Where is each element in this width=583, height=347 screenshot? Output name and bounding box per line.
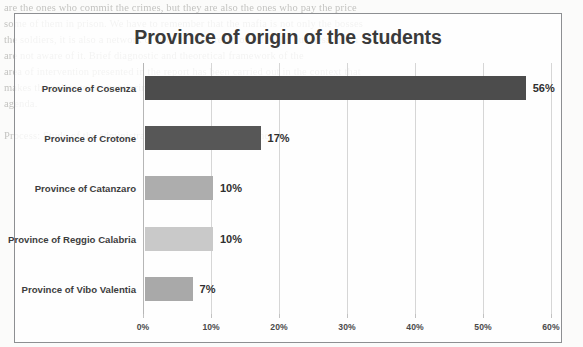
bar-row: Province of Vibo Valentia7% xyxy=(143,264,553,314)
category-label: Province of Cosenza xyxy=(42,83,136,94)
bar[interactable] xyxy=(145,176,213,200)
category-label: Province of Reggio Calabria xyxy=(8,233,136,244)
x-tick-label: 30% xyxy=(338,322,355,332)
bar-value-label: 56% xyxy=(533,82,555,94)
background-text-line: are the ones who commit the crimes, but … xyxy=(4,2,579,13)
category-label: Province of Catanzaro xyxy=(35,183,136,194)
bar-value-label: 7% xyxy=(200,283,216,295)
bar-value-label: 17% xyxy=(268,132,290,144)
x-tick-label: 40% xyxy=(406,322,423,332)
x-tick-label: 20% xyxy=(270,322,287,332)
x-tick-label: 10% xyxy=(202,322,219,332)
chart-title: Province of origin of the students xyxy=(15,26,561,49)
x-tick-mark xyxy=(143,314,144,318)
bar[interactable] xyxy=(145,76,526,100)
chart-frame: Province of origin of the students Provi… xyxy=(14,13,562,343)
x-axis: 0%10%20%30%40%50%60% xyxy=(143,314,553,340)
plot-area: Province of Cosenza56%Province of Croton… xyxy=(143,63,553,314)
x-tick-mark xyxy=(483,314,484,318)
x-tick-mark xyxy=(279,314,280,318)
x-tick-mark xyxy=(415,314,416,318)
bar[interactable] xyxy=(145,126,261,150)
bar-row: Province of Cosenza56% xyxy=(143,63,553,113)
category-label: Province of Crotone xyxy=(44,133,136,144)
x-tick-label: 60% xyxy=(542,322,559,332)
bar[interactable] xyxy=(145,277,193,301)
bar-row: Province of Crotone17% xyxy=(143,113,553,163)
x-tick-label: 50% xyxy=(474,322,491,332)
bar-value-label: 10% xyxy=(220,182,242,194)
bar-row: Province of Catanzaro10% xyxy=(143,163,553,213)
x-tick-mark xyxy=(211,314,212,318)
bar[interactable] xyxy=(145,227,213,251)
x-tick-label: 0% xyxy=(137,322,149,332)
bar-value-label: 10% xyxy=(220,233,242,245)
x-tick-mark xyxy=(551,314,552,318)
bar-row: Province of Reggio Calabria10% xyxy=(143,214,553,264)
x-tick-mark xyxy=(347,314,348,318)
category-label: Province of Vibo Valentia xyxy=(22,283,136,294)
